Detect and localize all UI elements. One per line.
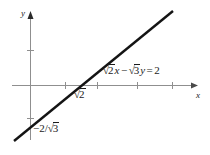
sqrt-3-value: √3 bbox=[48, 122, 60, 134]
equation-right-hand-side: 2 bbox=[154, 64, 160, 76]
sqrt-2-coefficient-x: √2 bbox=[103, 64, 115, 76]
figure-canvas: y x √2x−√3y=2 √2 −2/√3 bbox=[0, 0, 210, 155]
x-intercept-annotation: √2 bbox=[74, 88, 86, 100]
sqrt-3-coefficient-y: √3 bbox=[129, 64, 141, 76]
equation-annotation: √2x−√3y=2 bbox=[103, 64, 160, 76]
minus-operator: − bbox=[119, 64, 128, 76]
y-intercept-annotation: −2/√3 bbox=[33, 122, 59, 134]
x-axis-arrowhead-icon bbox=[191, 83, 198, 89]
plot-area bbox=[0, 0, 210, 155]
equals-operator: = bbox=[145, 64, 154, 76]
y-intercept-prefix: −2/ bbox=[33, 122, 48, 134]
y-axis-label: y bbox=[21, 9, 25, 18]
sqrt-2-value: √2 bbox=[74, 88, 86, 100]
y-axis-arrowhead-icon bbox=[28, 11, 34, 19]
x-axis-label: x bbox=[196, 91, 200, 100]
